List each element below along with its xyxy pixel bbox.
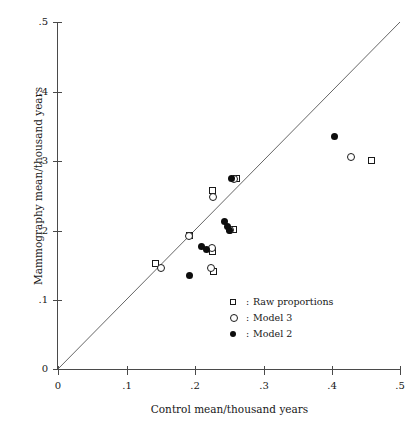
x-axis-tick-label: .1 — [115, 381, 139, 391]
data-point-open-circle-icon — [207, 264, 215, 272]
legend-colon: : — [244, 294, 251, 310]
data-point-open-square-icon — [368, 157, 375, 164]
x-axis-tick — [195, 366, 196, 375]
open-circle-icon — [230, 314, 244, 322]
x-axis-tick-label: .2 — [183, 381, 207, 391]
x-axis-tick — [58, 366, 59, 375]
x-axis-tick — [400, 366, 401, 375]
x-axis-tick — [332, 366, 333, 375]
y-axis-tick — [53, 231, 62, 232]
x-axis-tick-label: .4 — [320, 381, 344, 391]
y-axis-tick — [53, 22, 62, 23]
x-axis-line — [58, 369, 401, 370]
data-point-open-circle-icon — [157, 264, 165, 272]
scatter-plot-figure: .5 .4 .3 .2 .1 0 0 .1 .2 .3 .4 .5 Mammog… — [0, 0, 417, 429]
legend-item-model-3: : Model 3 — [230, 310, 333, 326]
x-axis-tick — [264, 366, 265, 375]
y-axis-title: Mammography mean/thousand years — [32, 66, 44, 306]
x-axis-tick-label: 0 — [46, 381, 70, 391]
data-point-open-circle-icon — [209, 193, 217, 201]
data-point-open-circle-icon — [347, 153, 355, 161]
data-point-filled-circle-icon — [331, 133, 338, 140]
identity-reference-line — [0, 0, 417, 429]
x-axis-tick-label: .5 — [388, 381, 412, 391]
data-point-open-circle-icon — [185, 232, 193, 240]
y-axis-tick — [53, 92, 62, 93]
filled-circle-icon — [230, 331, 244, 337]
data-point-filled-circle-icon — [186, 272, 193, 279]
y-axis-tick — [53, 161, 62, 162]
legend-label: Model 3 — [251, 310, 292, 326]
legend-item-model-2: : Model 2 — [230, 326, 333, 342]
x-axis-title: Control mean/thousand years — [58, 403, 401, 415]
data-point-filled-circle-icon — [226, 227, 233, 234]
x-axis-tick-label: .3 — [252, 381, 276, 391]
legend-colon: : — [244, 310, 251, 326]
y-axis-line — [57, 22, 58, 370]
legend-label: Raw proportions — [251, 294, 333, 310]
legend-label: Model 2 — [251, 326, 292, 342]
y-axis-tick — [53, 300, 62, 301]
legend: : Raw proportions : Model 3 : Model 2 — [230, 294, 333, 342]
legend-item-raw-proportions: : Raw proportions — [230, 294, 333, 310]
data-point-filled-circle-icon — [203, 246, 210, 253]
y-axis-tick-label: .5 — [24, 17, 48, 27]
open-square-icon — [230, 299, 244, 305]
legend-colon: : — [244, 326, 251, 342]
y-axis-tick-label: 0 — [24, 364, 48, 374]
x-axis-tick — [127, 366, 128, 375]
